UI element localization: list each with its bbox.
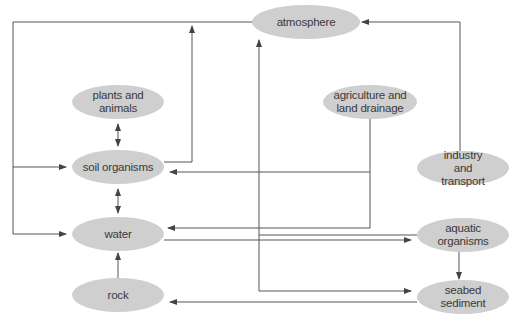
node-label-atmosphere: atmosphere — [277, 16, 336, 29]
edge-aquatic-organisms-atmosphere — [259, 40, 417, 235]
node-label-water: water — [104, 228, 131, 241]
node-label-agriculture-and-land-drainage: agriculture and land drainage — [333, 89, 406, 115]
node-label-soil-organisms: soil organisms — [83, 161, 154, 174]
node-label-plants-and-animals: plants and animals — [92, 89, 143, 115]
node-label-industry-and-transport: industry and transport — [437, 149, 490, 188]
node-label-rock: rock — [108, 289, 129, 302]
node-label-seabed-sediment: seabed sediment — [440, 284, 485, 310]
node-label-aquatic-organisms: aquatic organisms — [437, 222, 488, 248]
edge-agriculture-soil-organisms — [170, 119, 370, 172]
edge-agriculture-water — [168, 172, 370, 228]
edge-aquatic-organisms-seabed-loop — [259, 235, 411, 291]
edge-soil-organisms-atmosphere — [164, 26, 192, 162]
edge-atmosphere-water — [13, 167, 66, 234]
